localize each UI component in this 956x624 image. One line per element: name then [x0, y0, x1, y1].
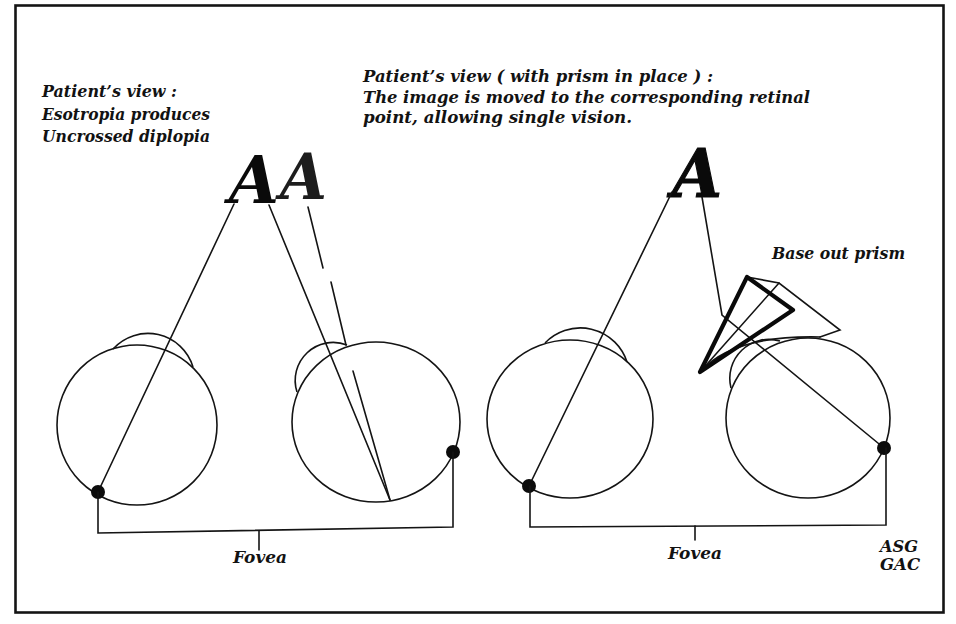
left-caption-line-3: Uncrossed diplopia [42, 126, 210, 146]
image-a-single: A [666, 134, 722, 213]
cornea [545, 328, 627, 362]
prism-front-face [700, 277, 793, 372]
fovea-dot [877, 441, 891, 455]
prism-base-curve [700, 337, 820, 372]
fovea-bracket [530, 448, 886, 527]
base-out-prism-icon [700, 277, 840, 372]
fovea-bracket [98, 452, 453, 533]
credit-line-2: GAC [880, 555, 920, 574]
left-eye-fixing [57, 204, 234, 505]
eyeball [726, 338, 890, 498]
eyeball [57, 345, 217, 505]
fovea-label-left: Fovea [232, 548, 287, 567]
projection-dash [353, 371, 390, 500]
refracted-ray-line [702, 197, 884, 448]
left-caption-line-2: Esotropia produces [41, 104, 210, 124]
image-a-false: A [275, 139, 327, 214]
projection-dash [308, 207, 323, 268]
right-caption-line-1: Patient’s view ( with prism in place ) : [362, 66, 713, 86]
eyeball [487, 340, 653, 498]
fovea-label-right: Fovea [667, 544, 722, 563]
right-caption-line-3: point, allowing single vision. [363, 107, 632, 127]
eyeball [292, 342, 460, 502]
prism-label: Base out prism [771, 243, 905, 263]
diagram-canvas: Patient’s view : Esotropia produces Uncr… [0, 0, 956, 624]
left-caption-line-1: Patient’s view : [41, 81, 177, 101]
projection-dash [331, 282, 346, 345]
cornea [113, 333, 193, 367]
right-eye-deviated [269, 205, 460, 502]
fovea-dot [522, 479, 536, 493]
left-eye-fixing [487, 192, 672, 498]
image-ray-line [269, 205, 390, 500]
diagram-svg: Patient’s view : Esotropia produces Uncr… [0, 0, 956, 624]
right-caption-line-2: The image is moved to the corresponding … [363, 87, 811, 107]
right-panel: Patient’s view ( with prism in place ) :… [362, 66, 920, 574]
credit-line-1: ASG [878, 537, 918, 556]
left-panel: Patient’s view : Esotropia produces Uncr… [41, 81, 460, 567]
